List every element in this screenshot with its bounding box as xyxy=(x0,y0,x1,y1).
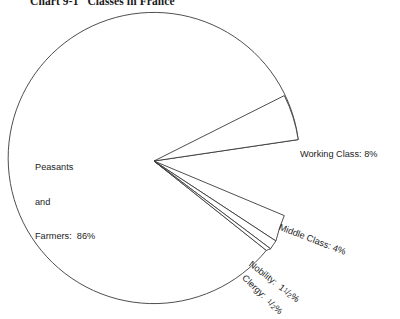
chart-page: Chart 9-1 Classes in France Peasants and… xyxy=(0,0,400,319)
slice-label-peasants-line2: and xyxy=(35,197,95,209)
slice-label-working-class: Working Class: 8% xyxy=(300,149,377,161)
slice-label-peasants-line1: Peasants xyxy=(35,162,95,174)
slice-label-peasants-line3: Farmers: 86% xyxy=(35,231,95,243)
slice-label-peasants: Peasants and Farmers: 86% xyxy=(35,139,95,266)
